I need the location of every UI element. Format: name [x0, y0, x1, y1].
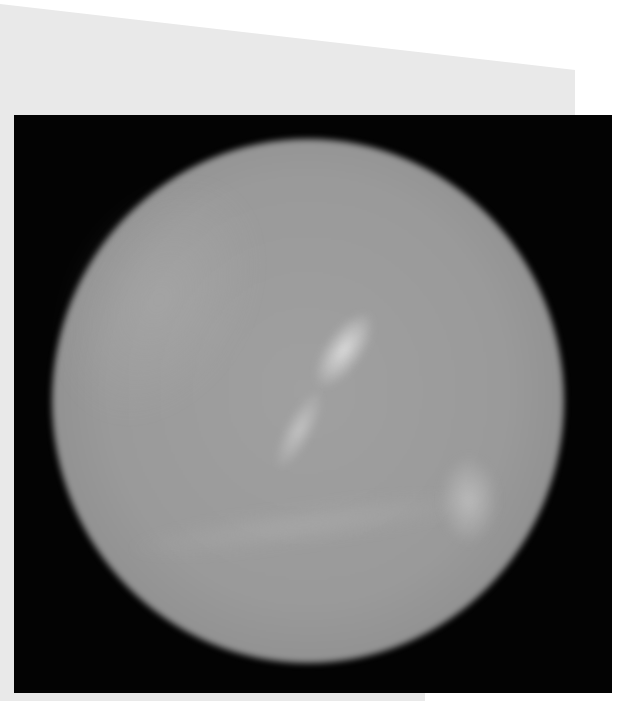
bright-spot — [439, 455, 499, 545]
image-frame — [14, 115, 612, 693]
